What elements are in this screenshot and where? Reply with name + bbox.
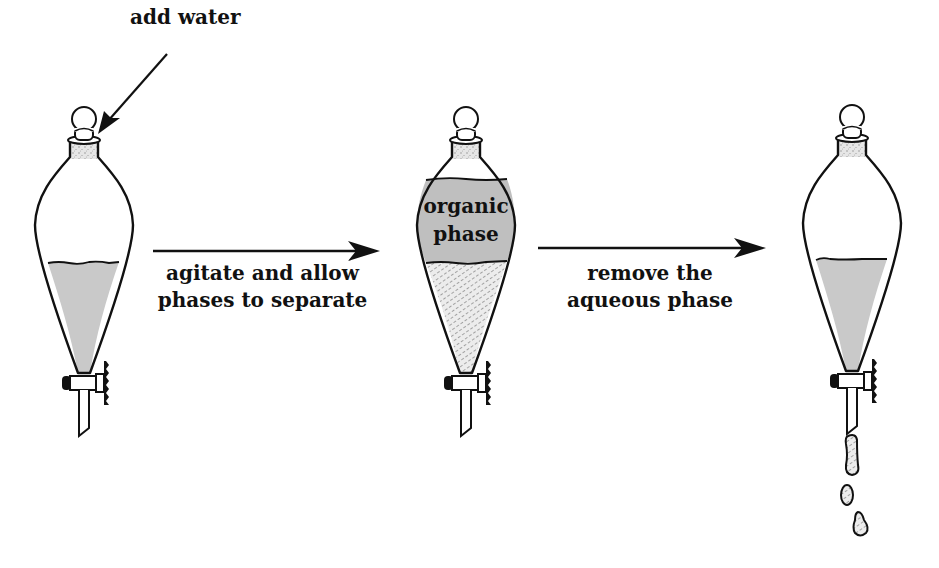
add-water-label: add water — [130, 4, 240, 31]
process-arrow-1 — [153, 241, 380, 261]
arrow-1-label: agitate and allow phases to separate — [145, 260, 380, 314]
arrow-2-label-line-2: aqueous phase — [545, 287, 755, 314]
separatory-funnel-2 — [417, 107, 515, 436]
stopper-icon — [72, 107, 96, 140]
organic-phase-label: organic phase — [416, 192, 516, 248]
aqueous-droplets — [841, 435, 868, 535]
aqueous-layer — [426, 261, 507, 373]
droplet-icon — [846, 435, 859, 475]
organic-phase-label-line-2: phase — [416, 220, 516, 248]
organic-phase-label-line-1: organic — [416, 192, 516, 220]
arrow-1-label-line-2: phases to separate — [145, 287, 380, 314]
process-arrow-2 — [538, 238, 766, 258]
arrow-1-label-line-1: agitate and allow — [145, 260, 380, 287]
stopper-icon — [454, 107, 478, 140]
stopper-icon — [840, 105, 864, 138]
arrow-2-label-line-1: remove the — [545, 260, 755, 287]
separatory-funnel-1 — [35, 107, 133, 436]
droplet-icon — [841, 485, 853, 505]
arrow-2-label: remove the aqueous phase — [545, 260, 755, 314]
extraction-diagram — [0, 0, 939, 568]
separatory-funnel-3 — [803, 105, 901, 434]
droplet-icon — [854, 512, 868, 536]
add-water-arrow — [98, 54, 167, 134]
